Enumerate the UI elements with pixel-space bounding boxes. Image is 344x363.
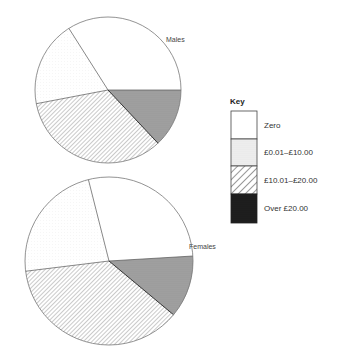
legend-swatch-zero	[231, 111, 257, 139]
legend-label-mid: £10.01–£20.00	[264, 176, 318, 185]
males-label: Males	[166, 36, 185, 43]
males-pie	[35, 17, 181, 163]
legend-swatch-low	[231, 139, 257, 166]
legend-label-low: £0.01–£10.00	[264, 148, 313, 157]
females-label: Females	[189, 243, 216, 250]
legend-swatch-high	[231, 194, 257, 223]
legend: Key Zero £0.01–£10.00 £10.01–£20.00 Over…	[230, 97, 318, 223]
pie-charts: Males Females Key Zero £0.01–£10.00 £10.…	[0, 0, 344, 363]
legend-title: Key	[230, 97, 245, 106]
legend-label-high: Over £20.00	[264, 204, 309, 213]
females-pie	[25, 177, 193, 345]
legend-swatch-mid	[231, 166, 257, 194]
legend-label-zero: Zero	[264, 121, 281, 130]
